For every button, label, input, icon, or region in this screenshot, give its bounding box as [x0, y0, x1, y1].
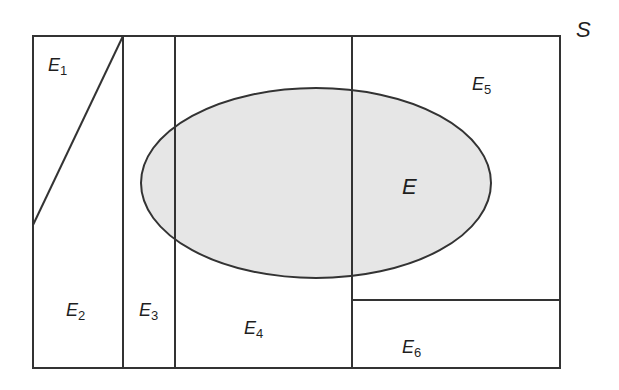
label-e3: E3 — [139, 300, 158, 323]
sample-space-label: S — [576, 17, 591, 42]
label-e2: E2 — [66, 300, 85, 323]
partition-diagram: S E E1 E2 E3 E4 E5 E6 — [0, 0, 619, 390]
partition-line-e1-e2-diagonal — [33, 36, 123, 225]
event-e-label: E — [402, 174, 417, 199]
label-e1: E1 — [48, 55, 67, 78]
label-e5: E5 — [472, 74, 491, 97]
event-e-ellipse — [141, 88, 491, 278]
label-e4: E4 — [244, 318, 263, 341]
label-e6: E6 — [402, 337, 421, 360]
